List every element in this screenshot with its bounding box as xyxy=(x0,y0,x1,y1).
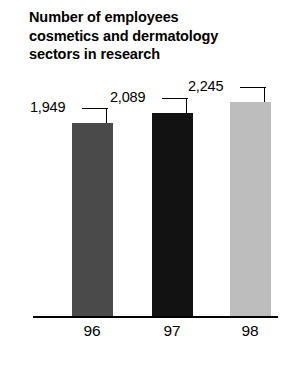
value-label-98: 2,245 xyxy=(188,78,223,94)
plot-area: 1,949 2,089 2,245 96 97 98 xyxy=(0,0,289,365)
x-tick-label-97: 97 xyxy=(142,322,202,340)
bar-98 xyxy=(230,102,271,316)
bar-96 xyxy=(72,123,113,316)
x-axis-line xyxy=(33,316,278,318)
x-tick-label-96: 96 xyxy=(62,322,122,340)
chart-container: Number of employees cosmetics and dermat… xyxy=(0,0,289,365)
x-tick-label-98: 98 xyxy=(220,322,280,340)
value-label-96: 1,949 xyxy=(30,99,65,115)
bar-97 xyxy=(152,113,193,316)
value-label-97: 2,089 xyxy=(110,89,145,105)
